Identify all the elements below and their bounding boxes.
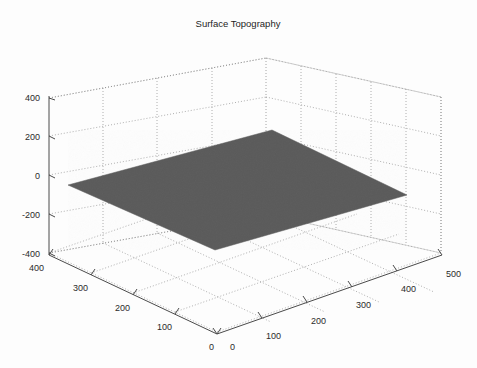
x-tick-label: 200	[311, 316, 326, 326]
y-tick-label: 300	[73, 283, 88, 293]
y-tick-label: 200	[115, 303, 130, 313]
x-tick-label: 100	[266, 331, 281, 341]
x-tick-label: 500	[446, 269, 461, 279]
surface-plot-canvas: Surface Topography 400 200 0 -200 -400 4…	[0, 0, 477, 368]
z-tick-label: -200	[22, 210, 40, 220]
matlab-figure-window: Surface Topography 400 200 0 -200 -400 4…	[0, 0, 477, 368]
y-tick-label: 100	[157, 322, 172, 332]
x-tick-label: 300	[356, 300, 371, 310]
chart-title: Surface Topography	[196, 18, 281, 29]
z-tick-label: 400	[25, 93, 40, 103]
y-tick-label: 400	[29, 263, 44, 273]
x-tick-label: 400	[401, 284, 416, 294]
z-tick-label: -400	[22, 249, 40, 259]
y-tick-label: 0	[209, 342, 214, 352]
z-tick-label: 200	[25, 132, 40, 142]
z-tick-label: 0	[35, 171, 40, 181]
x-tick-label: 0	[230, 342, 235, 352]
